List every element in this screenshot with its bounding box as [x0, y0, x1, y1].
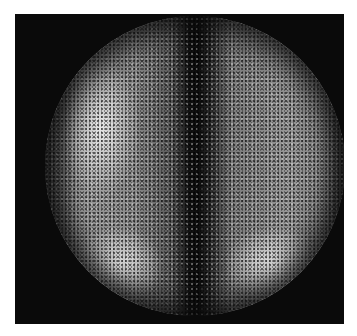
image-frame [15, 14, 344, 324]
circular-field-of-view [45, 16, 344, 316]
field-edge-vignette [45, 16, 344, 316]
